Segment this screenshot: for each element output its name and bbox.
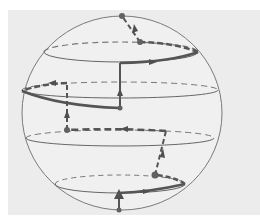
start-node [117, 208, 122, 213]
sphere-svg [0, 0, 260, 220]
sphere-outline [22, 16, 222, 210]
end-node-pole [119, 13, 125, 19]
node-ring1-back [137, 39, 143, 45]
sphere-diagram [0, 0, 260, 220]
node-ring3-back [64, 127, 70, 133]
node-ring4-back [152, 172, 159, 179]
node-ring2-front [118, 106, 123, 111]
